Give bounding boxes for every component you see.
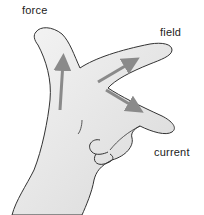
force-label: force: [22, 4, 47, 16]
field-label: field: [160, 26, 181, 38]
current-label: current: [154, 146, 190, 158]
hand-shape: [12, 28, 174, 215]
